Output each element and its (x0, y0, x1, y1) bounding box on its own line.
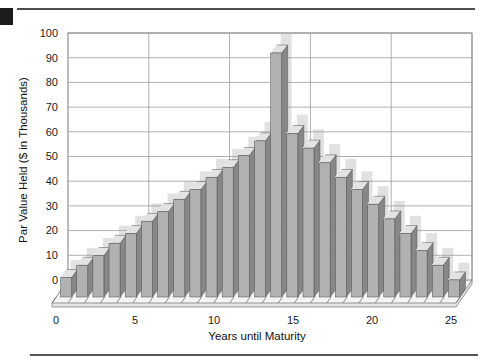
bond-maturity-3d-bar-chart: 01020304050607080901000510152025 Par Val… (0, 0, 496, 363)
bar-year-18 (335, 169, 352, 297)
y-tick-label: 40 (46, 175, 58, 187)
bar-year-9 (190, 182, 207, 297)
bar-year-20 (368, 196, 385, 297)
bar-year-7 (158, 204, 175, 297)
bar-front-face (287, 134, 298, 297)
bar-front-face (190, 190, 201, 297)
y-tick-label: 50 (46, 150, 58, 162)
bar-year-24 (432, 257, 449, 297)
bar-year-11 (222, 160, 239, 297)
bar-year-21 (384, 211, 401, 297)
bar-year-15 (287, 126, 304, 297)
y-tick-label: 20 (46, 224, 58, 236)
bar-year-16 (303, 140, 320, 297)
bar-year-22 (400, 226, 417, 297)
bar-front-face (400, 234, 411, 297)
x-tick-label: 15 (287, 314, 299, 326)
bar-front-face (109, 243, 120, 297)
bar-front-face (125, 234, 136, 297)
bar-front-face (222, 168, 233, 297)
y-tick-label: 30 (46, 200, 58, 212)
bar-year-10 (206, 169, 223, 297)
y-tick-label: 60 (46, 126, 58, 138)
x-tick-label: 20 (366, 314, 378, 326)
bar-front-face (384, 219, 395, 297)
bar-year-23 (416, 243, 433, 297)
x-axis-title: Years until Maturity (208, 330, 306, 342)
scanned-textbook-figure: 01020304050607080901000510152025 Par Val… (0, 0, 496, 363)
bar-year-14 (271, 45, 288, 297)
bar-year-5 (125, 226, 142, 297)
y-tick-label: 80 (46, 76, 58, 88)
bar-front-face (368, 204, 379, 297)
bar-front-face (335, 177, 346, 297)
bar-year-17 (319, 155, 336, 297)
bar-front-face (319, 163, 330, 297)
bar-year-12 (238, 147, 255, 297)
bar-front-face (416, 251, 427, 297)
bar-front-face (432, 265, 443, 297)
bar-front-face (141, 221, 152, 297)
bar-year-2 (77, 257, 94, 297)
bar-front-face (61, 277, 72, 297)
bar-year-6 (141, 213, 158, 297)
bar-front-face (93, 256, 104, 297)
bar-front-face (303, 148, 314, 297)
x-tick-label: 5 (132, 314, 138, 326)
bar-front-face (271, 53, 282, 297)
bar-front-face (238, 155, 249, 297)
x-tick-label: 25 (445, 314, 457, 326)
y-tick-label: 0 (52, 274, 58, 286)
y-tick-label: 90 (46, 52, 58, 64)
bar-year-3 (93, 248, 110, 297)
y-tick-label: 70 (46, 101, 58, 113)
x-tick-label: 10 (208, 314, 220, 326)
y-tick-label: 100 (40, 27, 58, 39)
bar-year-4 (109, 235, 126, 297)
bar-front-face (448, 280, 459, 297)
bar-front-face (206, 177, 217, 297)
bar-front-face (255, 141, 266, 297)
bar-front-face (158, 212, 169, 297)
y-tick-label: 10 (46, 249, 58, 261)
bar-front-face (77, 265, 88, 297)
bar-year-8 (174, 191, 191, 297)
bar-year-19 (351, 182, 368, 297)
bar-year-13 (255, 133, 272, 297)
y-axis-title: Par Value Held ($ in Thousands) (17, 77, 29, 243)
bar-front-face (174, 199, 185, 297)
chart-canvas: 01020304050607080901000510152025 (40, 27, 472, 326)
bar-front-face (351, 190, 362, 297)
x-tick-label: 0 (53, 314, 59, 326)
